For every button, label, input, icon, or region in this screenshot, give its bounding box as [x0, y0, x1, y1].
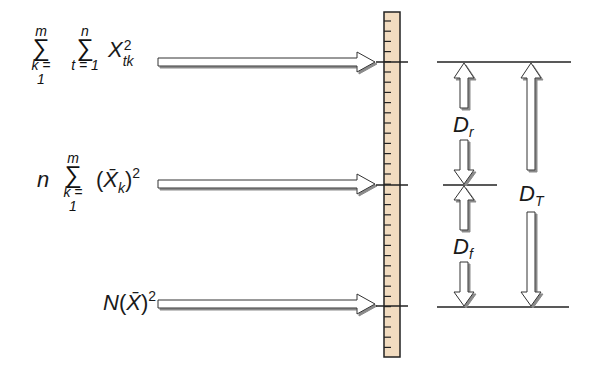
arrow-dr-down: [454, 140, 474, 184]
arrow-dt-up: [521, 63, 541, 170]
arrow-df-down: [454, 262, 474, 306]
arrow-correction-to-ruler: [158, 294, 375, 314]
label-df: Df: [453, 234, 473, 262]
arrow-dt-down: [521, 212, 541, 306]
arrow-dr-up: [454, 63, 474, 108]
label-dt: DT: [519, 181, 543, 209]
arrow-total-to-ruler: [158, 52, 375, 72]
label-dr: Dr: [453, 112, 474, 140]
label-main: D: [453, 234, 469, 259]
label-main: D: [453, 112, 469, 137]
label-main: D: [519, 181, 535, 206]
diagram-canvas: [0, 0, 602, 369]
label-sub: T: [535, 193, 544, 209]
label-sub: r: [469, 124, 474, 140]
arrow-df-up: [454, 186, 474, 230]
label-sub: f: [469, 246, 473, 262]
arrow-between-to-ruler: [158, 174, 375, 194]
